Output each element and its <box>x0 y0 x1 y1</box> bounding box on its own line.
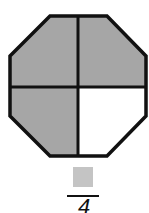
numerator-answer-box[interactable] <box>73 167 93 187</box>
denominator: 4 <box>72 196 96 213</box>
octagon-fraction-figure <box>0 0 149 170</box>
region-top-right <box>78 0 149 87</box>
